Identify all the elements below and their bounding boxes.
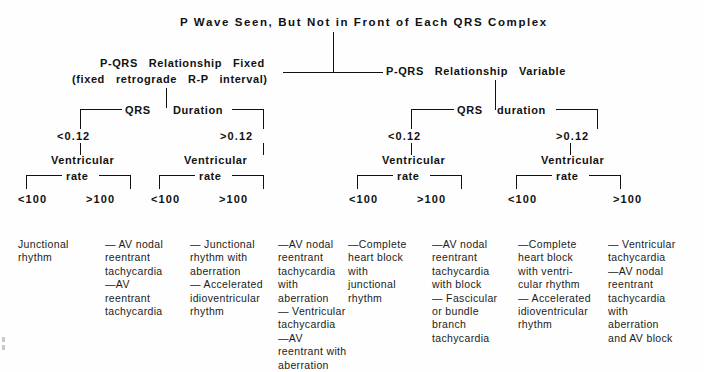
ventricular-rate-label-1-line2: rate [66,169,89,184]
outcome-list-1: Junctional rhythm [18,238,106,265]
left-duration-bar-inner-left [80,109,122,110]
left-qrs-lt-label: <0.12 [57,130,90,142]
rate-4-gt-label: >100 [613,193,642,205]
outcome-list-8: — Ventricular tachycardia —AV nodal reen… [608,238,700,345]
rate-3-gt-label: >100 [417,193,446,205]
rate-4-lt-label: <100 [508,193,537,205]
left-duration-drop-lt [80,109,81,129]
ventricular-rate-label-2-line2: rate [199,169,222,184]
rate-2-gt-label: >100 [219,193,248,205]
rate-stem-2 [263,143,264,155]
ecg-decision-tree-diagram: P Wave Seen, But Not in Front of Each QR… [0,0,704,372]
ventricular-rate-label-2-line1: Ventricular [184,153,247,168]
rate-drop-2-gt [263,175,264,189]
rate-bar-4-left [516,175,552,176]
rate-drop-1-lt [26,175,27,189]
rate-1-gt-label: >100 [86,193,115,205]
rate-bar-3-left [357,175,393,176]
rate-bar-1-left [26,175,62,176]
left-duration-drop-gt [263,109,264,129]
left-duration-label: Duration [173,103,223,118]
rate-bar-3-right [430,175,462,176]
right-qrs-label: QRS [457,103,483,118]
outcome-list-2: — AV nodal reentrant tachycardia —AV ree… [105,238,193,318]
rate-bar-2-right [232,175,264,176]
right-duration-drop-gt [597,109,598,129]
right-qrs-gt-label: >0.12 [556,130,589,142]
rate-drop-1-gt [130,175,131,189]
outcome-list-5: —Complete heart block with junctional rh… [348,238,436,305]
left-qrs-duration-stem [166,88,167,108]
rate-drop-4-lt [516,175,517,189]
right-duration-bar-inner-right [556,109,598,110]
scan-edge-artifact [2,345,5,350]
rate-drop-3-lt [357,175,358,189]
right-duration-bar-inner-left [411,109,454,110]
diagram-title: P Wave Seen, But Not in Front of Each QR… [180,16,548,28]
right-qrs-duration-stem [495,80,496,110]
rate-drop-4-gt [620,175,621,189]
ventricular-rate-label-3-line2: rate [397,169,420,184]
left-duration-bar-inner-right [232,109,264,110]
rate-1-lt-label: <100 [18,193,47,205]
rate-bar-1-right [99,175,131,176]
rate-2-lt-label: <100 [151,193,180,205]
ventricular-rate-label-1-line1: Ventricular [51,153,114,168]
outcome-list-6: —AV nodal reentrant tachycardia with blo… [432,238,524,345]
right-duration-label: duration [497,103,546,118]
ventricular-rate-label-4-line1: Ventricular [541,153,604,168]
ventricular-rate-label-3-line1: Ventricular [382,153,445,168]
left-branch-label-line2: (fixed retrograde R-P interval) [72,72,268,87]
outcome-list-3: — Junctional rhythm with aberration — Ac… [190,238,284,318]
right-branch-label: P-QRS Relationship Variable [386,64,566,79]
left-qrs-gt-label: >0.12 [220,130,253,142]
root-stem [333,32,334,72]
rate-bar-2-left [159,175,195,176]
root-split-bar [283,72,383,73]
right-duration-drop-lt [411,109,412,129]
rate-drop-2-lt [159,175,160,189]
outcome-list-7: —Complete heart block with ventri- cular… [518,238,610,332]
rate-drop-3-gt [461,175,462,189]
right-qrs-lt-label: <0.12 [388,130,421,142]
scan-edge-artifact [2,337,5,342]
left-qrs-label: QRS [125,103,151,118]
rate-bar-4-right [589,175,621,176]
ventricular-rate-label-4-line2: rate [556,169,579,184]
rate-3-lt-label: <100 [349,193,378,205]
left-branch-label-line1: P-QRS Relationship Fixed [100,56,265,71]
